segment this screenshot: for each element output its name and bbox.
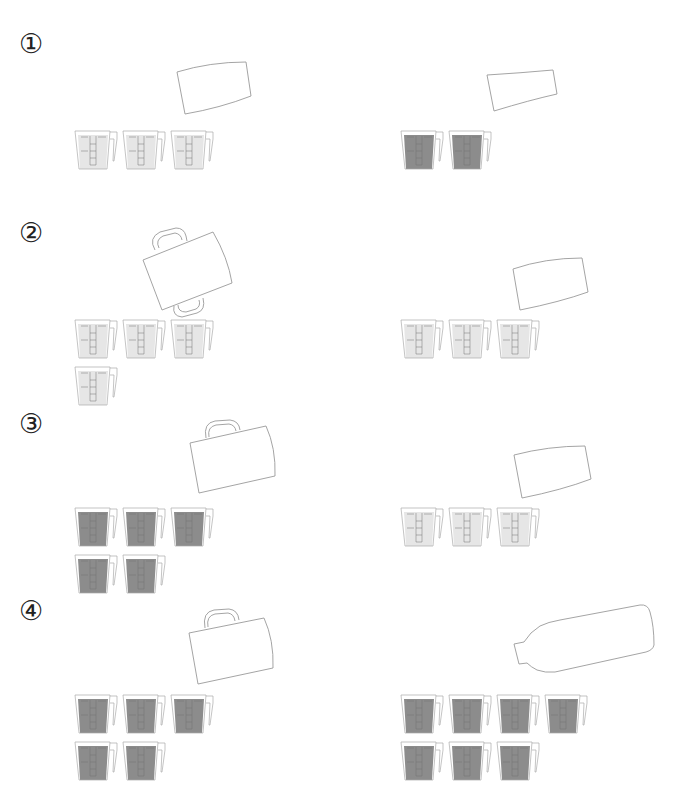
measuring-cup-icon [74, 691, 118, 735]
measuring-cup-icon [122, 316, 166, 360]
cup-container-icon [513, 258, 588, 310]
measuring-cup-icon [400, 316, 444, 360]
measuring-cup-icon [448, 691, 492, 735]
measuring-cup-icon [74, 363, 118, 407]
cup-container-icon [514, 446, 591, 498]
measuring-cup-icon [122, 738, 166, 782]
measuring-cup-icon [122, 551, 166, 595]
measuring-cup-icon [496, 738, 540, 782]
measuring-cup-icon [170, 504, 214, 548]
bottle-container-icon [514, 605, 654, 672]
measuring-cup-icon [544, 691, 588, 735]
measuring-cup-icon [448, 316, 492, 360]
cup-small-container-icon [487, 70, 557, 111]
measuring-cup-icon [496, 504, 540, 548]
pitcher-container-icon [190, 420, 275, 493]
measuring-cup-icon [74, 316, 118, 360]
measuring-cup-icon [122, 127, 166, 171]
measuring-cup-icon [400, 738, 444, 782]
measuring-cup-icon [122, 504, 166, 548]
measuring-cup-icon [448, 738, 492, 782]
measuring-cup-icon [74, 738, 118, 782]
measuring-cup-icon [170, 316, 214, 360]
measuring-cup-icon [400, 127, 444, 171]
pot-container-icon [143, 228, 232, 317]
measuring-cup-icon [122, 691, 166, 735]
measuring-cup-icon [400, 504, 444, 548]
cup-container-icon [177, 62, 251, 114]
measuring-cup-icon [448, 127, 492, 171]
measuring-cup-icon [74, 504, 118, 548]
measuring-cup-icon [496, 691, 540, 735]
measuring-cup-icon [74, 551, 118, 595]
measuring-cup-icon [448, 504, 492, 548]
measuring-cup-icon [400, 691, 444, 735]
pitcher-container-icon [189, 609, 273, 684]
measuring-cup-icon [170, 691, 214, 735]
measuring-cup-icon [74, 127, 118, 171]
measuring-cup-icon [170, 127, 214, 171]
measuring-cup-icon [496, 316, 540, 360]
